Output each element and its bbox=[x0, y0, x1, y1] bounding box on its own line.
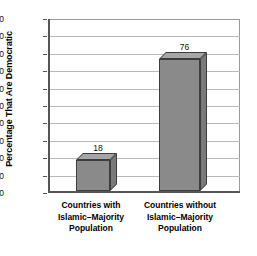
y-tick-label: 70 bbox=[0, 66, 4, 76]
y-tick-mark bbox=[43, 106, 47, 107]
y-tick-mark bbox=[43, 193, 47, 194]
x-category-label-line: Countries without bbox=[144, 200, 216, 212]
y-tick-mark bbox=[43, 71, 47, 72]
y-tick-mark bbox=[43, 123, 47, 124]
y-tick-label: 90 bbox=[0, 31, 4, 41]
y-tick-mark bbox=[43, 19, 47, 20]
x-category-label: Countries withoutIslamic–MajorityPopulat… bbox=[144, 200, 216, 235]
bar-side-face bbox=[200, 52, 207, 191]
y-tick-mark bbox=[43, 158, 47, 159]
gridline bbox=[50, 123, 240, 124]
bar-chart: Percentage That Are Democratic 010203040… bbox=[0, 0, 257, 256]
y-tick-label: 20 bbox=[0, 153, 4, 163]
x-category-label: Countries withIslamic–MajorityPopulation bbox=[58, 200, 124, 235]
y-tick-mark bbox=[43, 176, 47, 177]
y-tick-label: 80 bbox=[0, 49, 4, 59]
bar-value-label: 76 bbox=[180, 42, 189, 52]
y-tick-label: 40 bbox=[0, 118, 4, 128]
x-category-label-line: Countries with bbox=[58, 200, 124, 212]
y-tick-label: 50 bbox=[0, 101, 4, 111]
y-tick-mark bbox=[43, 89, 47, 90]
bar bbox=[159, 59, 200, 191]
x-category-label-line: Population bbox=[144, 223, 216, 235]
gridline bbox=[50, 19, 240, 20]
y-tick-label: 30 bbox=[0, 136, 4, 146]
x-category-label-line: Population bbox=[58, 223, 124, 235]
plot-frame-right-edge bbox=[239, 19, 240, 191]
gridline bbox=[50, 71, 240, 72]
y-tick-mark bbox=[43, 54, 47, 55]
gridline bbox=[50, 106, 240, 107]
y-tick-label: 0 bbox=[0, 188, 4, 198]
y-tick-label: 100 bbox=[0, 14, 4, 24]
x-category-label-line: Islamic–Majority bbox=[58, 212, 124, 224]
bar-front-face bbox=[159, 59, 200, 191]
y-tick-label: 10 bbox=[0, 171, 4, 181]
bar-side-face bbox=[110, 153, 117, 191]
gridline bbox=[50, 141, 240, 142]
x-category-label-line: Islamic–Majority bbox=[144, 212, 216, 224]
gridline bbox=[50, 89, 240, 90]
bar-front-face bbox=[76, 160, 110, 191]
bar-value-label: 18 bbox=[93, 143, 102, 153]
y-tick-mark bbox=[43, 36, 47, 37]
y-tick-mark bbox=[43, 141, 47, 142]
plot-area bbox=[48, 19, 240, 193]
x-axis-category-labels: Countries withIslamic–MajorityPopulation… bbox=[0, 200, 257, 246]
gridline bbox=[50, 54, 240, 55]
bar bbox=[76, 160, 110, 191]
y-tick-label: 60 bbox=[0, 84, 4, 94]
gridline bbox=[50, 36, 240, 37]
